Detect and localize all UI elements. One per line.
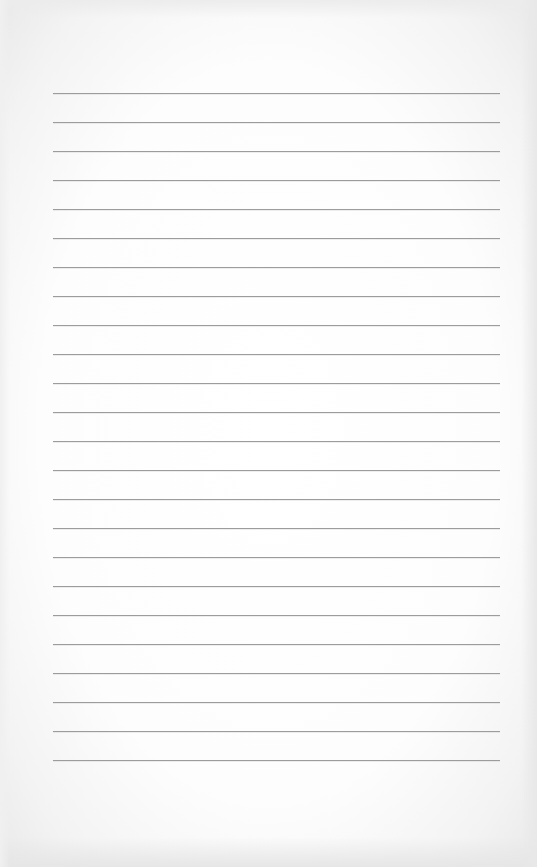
ruled-line	[53, 296, 500, 297]
ruled-line	[53, 383, 500, 384]
ruled-line	[53, 644, 500, 645]
lined-paper-page	[0, 0, 537, 867]
paper-edge-left	[0, 0, 10, 867]
paper-edge-bottom	[0, 837, 537, 867]
paper-edge-top	[0, 0, 537, 18]
ruled-line	[53, 93, 500, 94]
ruled-line	[53, 267, 500, 268]
ruled-line	[53, 731, 500, 732]
ruled-line	[53, 557, 500, 558]
ruled-line	[53, 151, 500, 152]
ruled-line	[53, 412, 500, 413]
ruled-line	[53, 354, 500, 355]
ruled-line	[53, 441, 500, 442]
ruled-line	[53, 470, 500, 471]
ruled-line	[53, 702, 500, 703]
ruled-line	[53, 760, 500, 761]
ruled-line	[53, 615, 500, 616]
ruled-line	[53, 673, 500, 674]
ruled-line	[53, 499, 500, 500]
ruled-line	[53, 209, 500, 210]
ruled-line	[53, 325, 500, 326]
ruled-line	[53, 180, 500, 181]
ruled-line	[53, 528, 500, 529]
ruled-line	[53, 238, 500, 239]
ruled-line	[53, 122, 500, 123]
paper-edge-right	[521, 0, 537, 867]
ruled-line	[53, 586, 500, 587]
